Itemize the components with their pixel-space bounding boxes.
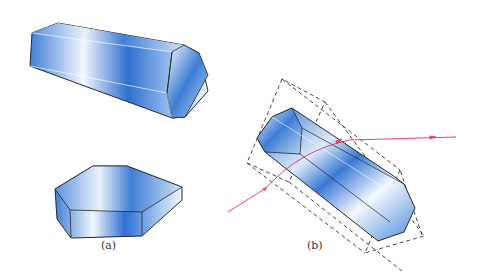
figure-canvas [0, 0, 479, 280]
panel-label-a: (a) [101, 239, 116, 252]
crystal-prism-elongated [30, 23, 208, 118]
crystal-prism-b [257, 108, 415, 241]
panel-label-b: (b) [307, 239, 323, 252]
crystal-hex-plate [55, 166, 182, 238]
